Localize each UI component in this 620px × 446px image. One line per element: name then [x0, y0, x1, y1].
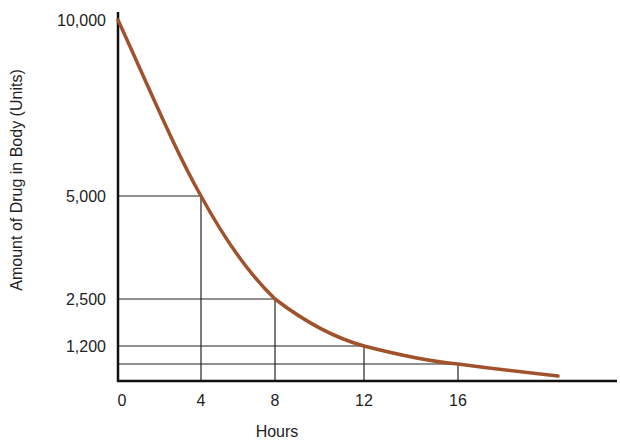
x-tick-12: 12 [355, 392, 373, 409]
y-tick-5000: 5,000 [66, 188, 106, 205]
y-axis-label: Amount of Drug in Body (Units) [8, 69, 25, 290]
reference-lines [118, 196, 458, 381]
x-tick-4: 4 [197, 392, 206, 409]
y-tick-1200: 1,200 [66, 338, 106, 355]
x-axis-label: Hours [256, 423, 299, 440]
x-tick-8: 8 [271, 392, 280, 409]
drug-decay-chart: 10,000 5,000 2,500 1,200 0 4 8 12 16 Hou… [0, 0, 620, 446]
x-tick-16: 16 [449, 392, 467, 409]
decay-curve [118, 20, 558, 376]
y-tick-10000: 10,000 [57, 12, 106, 29]
x-tick-0: 0 [118, 392, 127, 409]
y-tick-2500: 2,500 [66, 291, 106, 308]
